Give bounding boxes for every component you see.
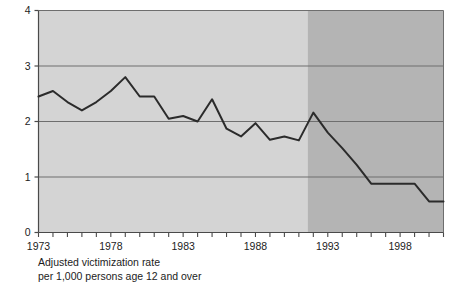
- caption-line-2: per 1,000 persons age 12 and over: [38, 269, 448, 283]
- x-tick-label: 1988: [244, 240, 268, 252]
- x-tick-label: 1978: [99, 240, 123, 252]
- y-tick-label: 3: [25, 60, 31, 72]
- chart-caption: Adjusted victimization rate per 1,000 pe…: [38, 255, 448, 283]
- y-tick-label: 1: [25, 171, 31, 183]
- caption-line-1: Adjusted victimization rate: [38, 255, 448, 269]
- y-tick-label: 0: [25, 226, 31, 238]
- chart-figure: 01234197319781983198819931998 Adjusted v…: [0, 0, 458, 289]
- y-tick-label: 4: [25, 4, 31, 16]
- x-tick-label: 1983: [171, 240, 195, 252]
- x-tick-label: 1973: [27, 240, 51, 252]
- x-tick-label: 1993: [316, 240, 340, 252]
- line-chart: 01234197319781983198819931998: [0, 0, 458, 289]
- x-tick-label: 1998: [388, 240, 412, 252]
- y-tick-label: 2: [25, 115, 31, 127]
